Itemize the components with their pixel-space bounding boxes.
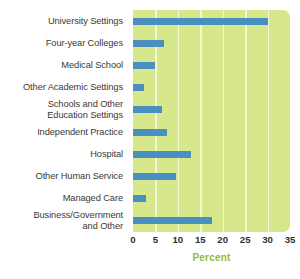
- bar-row: [133, 99, 290, 121]
- x-tick-label: 25: [240, 234, 251, 246]
- x-tick-label: 15: [195, 234, 206, 246]
- bar: [133, 106, 162, 113]
- bar: [133, 173, 176, 180]
- bar: [133, 62, 155, 69]
- bar-row: [133, 10, 290, 32]
- x-tick-label: 30: [262, 234, 273, 246]
- category-label: Managed Care: [0, 188, 128, 210]
- bar-row: [133, 54, 290, 76]
- category-label: Hospital: [0, 143, 128, 165]
- bar: [133, 151, 191, 158]
- bar-row: [133, 210, 290, 232]
- category-label: Medical School: [0, 54, 128, 76]
- plot-area: [133, 10, 290, 232]
- x-axis-title: Percent: [133, 252, 290, 263]
- x-tick-label: 0: [130, 234, 135, 246]
- bar: [133, 195, 146, 202]
- x-tick-label: 20: [217, 234, 228, 246]
- bar: [133, 18, 268, 25]
- bar-row: [133, 188, 290, 210]
- x-axis-tick-labels: 05101520253035: [133, 234, 290, 247]
- percent-bar-chart: University SettingsFour-year CollegesMed…: [0, 0, 300, 279]
- category-label: Four-year Colleges: [0, 32, 128, 54]
- category-label: Other Academic Settings: [0, 77, 128, 99]
- bar-row: [133, 32, 290, 54]
- category-label: Independent Practice: [0, 121, 128, 143]
- bars-container: [133, 10, 290, 232]
- bar: [133, 129, 167, 136]
- bar-row: [133, 165, 290, 187]
- category-label: Other Human Service: [0, 165, 128, 187]
- category-label: University Settings: [0, 10, 128, 32]
- bar: [133, 40, 164, 47]
- category-label: Schools and Other Education Settings: [0, 99, 128, 121]
- bar-row: [133, 77, 290, 99]
- bar-row: [133, 143, 290, 165]
- category-label: Business/Government and Other: [0, 210, 128, 232]
- bar: [133, 217, 212, 224]
- bar-row: [133, 121, 290, 143]
- x-tick-label: 35: [285, 234, 296, 246]
- x-tick-label: 5: [153, 234, 158, 246]
- bar: [133, 84, 144, 91]
- x-tick-label: 10: [173, 234, 184, 246]
- category-axis-labels: University SettingsFour-year CollegesMed…: [0, 10, 128, 232]
